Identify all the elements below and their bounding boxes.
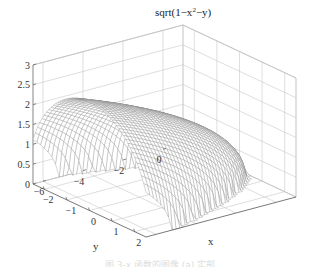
y-tick-label: −2 [114, 165, 125, 176]
z-tick-label: 1 [25, 139, 30, 150]
y-tick-label: −6 [34, 186, 45, 197]
figure-caption: 图 3-x 函数的图像 (a) 实部 [40, 258, 280, 267]
z-tick-label: 2.5 [18, 79, 31, 90]
x-tick-label: −1 [66, 205, 77, 216]
x-tick-label: 2 [136, 237, 141, 248]
chart-title: sqrt(1−x2−y) [155, 6, 212, 19]
y-axis-label: y [93, 240, 99, 252]
x-tick-label: 0 [91, 216, 96, 227]
z-tick-label: 3 [25, 60, 30, 71]
z-tick-label: 0.5 [18, 159, 31, 170]
z-tick-label: 2 [25, 99, 30, 110]
surface-plot: sqrt(1−x2−y) 00.511.522.53 −2−1012 0−2−4… [0, 0, 311, 267]
z-tick-label: 0 [25, 179, 30, 190]
z-tick-label: 1.5 [18, 119, 31, 130]
x-axis-label: x [208, 235, 214, 247]
y-tick-label: −4 [74, 176, 85, 187]
x-tick-label: 1 [114, 226, 119, 237]
x-tick-label: −2 [43, 194, 54, 205]
y-tick-label: 0 [157, 154, 162, 165]
